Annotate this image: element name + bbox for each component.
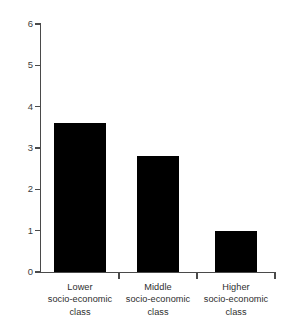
y-axis-tick-label: 5 [0,60,33,70]
x-axis-line [40,272,276,273]
bar-chart: 0123456 Lowersocio-economicclassMiddleso… [0,0,302,321]
x-axis-tick [118,273,119,279]
bar [137,156,179,272]
category-label-line: class [188,306,284,318]
top-blank-strip [0,0,302,10]
x-axis-category-label: Highersocio-economicclass [188,281,284,318]
x-axis-tick [274,273,275,279]
bars-group [41,24,275,272]
category-label-line: socio-economic [188,293,284,305]
y-axis-tick-label: 4 [0,102,33,112]
y-axis-tick-label: 3 [0,143,33,153]
y-axis-tick-label: 1 [0,226,33,236]
y-axis-tick-label: 2 [0,184,33,194]
x-axis-tick [196,273,197,279]
bar [54,123,106,272]
y-axis-tick-label: 6 [0,19,33,29]
y-axis-tick-label: 0 [0,267,33,277]
bar [215,231,257,272]
category-label-line: Higher [188,281,284,293]
